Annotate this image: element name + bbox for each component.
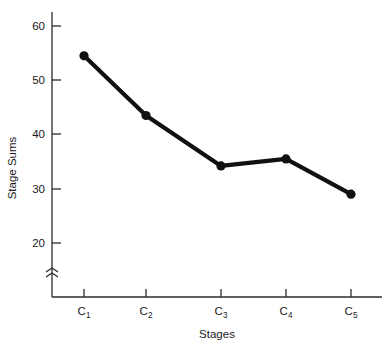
x-tick-subscript: 3 bbox=[223, 311, 228, 320]
x-tick-subscript: 2 bbox=[148, 311, 153, 320]
svg-text:C5: C5 bbox=[345, 305, 358, 320]
x-tick-base: C bbox=[280, 305, 288, 317]
x-axis-title: Stages bbox=[199, 328, 235, 340]
y-tick-label: 40 bbox=[32, 128, 45, 140]
x-tick-subscript: 4 bbox=[288, 311, 293, 320]
y-tick-label: 20 bbox=[32, 237, 45, 249]
svg-text:C3: C3 bbox=[215, 305, 228, 320]
y-axis-title: Stage Sums bbox=[6, 136, 18, 199]
x-tick-base: C bbox=[215, 305, 223, 317]
data-point-C1 bbox=[79, 51, 88, 60]
data-point-C3 bbox=[216, 161, 225, 170]
data-point-markers bbox=[79, 51, 355, 199]
x-tick-label: C5 bbox=[345, 305, 358, 320]
data-point-C4 bbox=[281, 154, 290, 163]
data-point-C2 bbox=[141, 111, 150, 120]
data-series-line bbox=[84, 56, 351, 194]
x-tick-label: C4 bbox=[280, 305, 293, 320]
x-tick-base: C bbox=[345, 305, 353, 317]
x-axis-ticks bbox=[84, 289, 351, 297]
svg-text:C1: C1 bbox=[78, 305, 91, 320]
y-tick-label: 60 bbox=[32, 20, 45, 32]
chart-container: 60 50 40 30 20 C1 C2 C3 bbox=[0, 0, 390, 344]
y-axis-ticks bbox=[52, 26, 61, 243]
x-tick-base: C bbox=[140, 305, 148, 317]
x-tick-label: C2 bbox=[140, 305, 153, 320]
svg-text:C4: C4 bbox=[280, 305, 293, 320]
x-tick-subscript: 1 bbox=[86, 311, 91, 320]
line-chart: 60 50 40 30 20 C1 C2 C3 bbox=[0, 0, 390, 344]
svg-text:C2: C2 bbox=[140, 305, 153, 320]
x-tick-label: C3 bbox=[215, 305, 228, 320]
x-tick-base: C bbox=[78, 305, 86, 317]
data-point-C5 bbox=[346, 190, 355, 199]
y-tick-label: 30 bbox=[32, 183, 45, 195]
x-tick-subscript: 5 bbox=[353, 311, 358, 320]
x-tick-label: C1 bbox=[78, 305, 91, 320]
y-tick-label: 50 bbox=[32, 74, 45, 86]
